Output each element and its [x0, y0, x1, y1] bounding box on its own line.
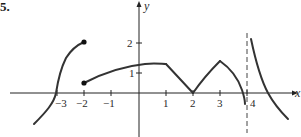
right-branch: [251, 39, 288, 119]
problem-number: 5.: [0, 0, 10, 14]
x-tick-label: −1: [103, 97, 115, 109]
x-tick-label: 2: [190, 97, 196, 109]
x-tick-label: 3: [217, 97, 223, 109]
y-tick-label: 2: [127, 37, 133, 49]
closed-dot-top: [81, 39, 86, 44]
x-tick-label: −3: [55, 97, 67, 109]
x-tick-label: 1: [163, 97, 169, 109]
y-ticks: 1 2: [127, 37, 142, 79]
rising-segment: [193, 61, 220, 93]
y-axis-arrow-icon: [137, 1, 142, 7]
x-axis-label: x: [294, 86, 301, 100]
function-curves: [34, 39, 288, 124]
middle-arc: [84, 64, 166, 83]
function-graph: 5. x y −3 −2 −1 1 2 3 4 1 2: [0, 0, 301, 137]
y-tick-label: 1: [129, 67, 135, 79]
x-tick-label: −2: [76, 97, 88, 109]
falling-to-asymptote: [220, 61, 245, 104]
y-axis: y: [137, 0, 151, 137]
left-branch: [34, 42, 84, 124]
x-tick-label: 4: [250, 97, 256, 109]
descending-line: [166, 64, 193, 93]
y-axis-label: y: [143, 0, 150, 13]
closed-dot-bottom: [81, 80, 86, 85]
